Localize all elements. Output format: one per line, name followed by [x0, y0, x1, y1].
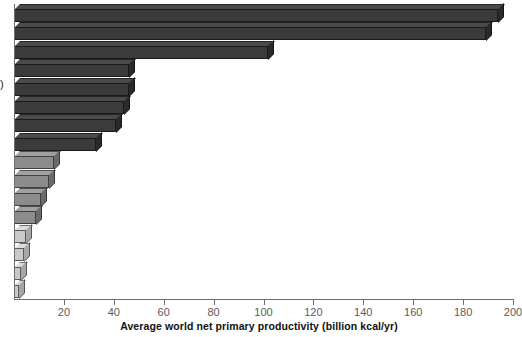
- x-axis-tick-label: 120: [304, 306, 322, 318]
- bar: [14, 78, 134, 96]
- bar: [14, 96, 129, 114]
- x-axis-tick: [413, 300, 414, 305]
- bar: [14, 114, 121, 132]
- x-axis-tick-label: 160: [404, 306, 422, 318]
- bar-side-face: [36, 205, 42, 225]
- plot-area: [14, 4, 518, 299]
- bar-front-face: [14, 175, 49, 188]
- bar-front-face: [14, 193, 41, 206]
- bar: [14, 41, 273, 59]
- bar: [14, 262, 26, 280]
- bar: [14, 170, 54, 188]
- bar: [14, 243, 29, 261]
- x-axis-tick: [114, 300, 115, 305]
- bar-front-face: [14, 9, 498, 22]
- y-axis-label-clipped: ): [0, 78, 4, 90]
- x-axis-tick: [513, 300, 514, 305]
- x-axis-tick: [64, 300, 65, 305]
- x-axis-tick-label: 60: [158, 306, 170, 318]
- bar-side-face: [268, 40, 274, 60]
- x-axis-tick: [264, 300, 265, 305]
- bar-front-face: [14, 46, 268, 59]
- x-axis-tick-label: 40: [108, 306, 120, 318]
- bar: [14, 22, 491, 40]
- bar: [14, 4, 503, 22]
- bar-front-face: [14, 230, 26, 243]
- bar: [14, 280, 24, 298]
- x-axis-tick-label: 140: [354, 306, 372, 318]
- x-axis-tick-label: 100: [254, 306, 272, 318]
- y-axis-line: [14, 4, 15, 300]
- x-axis-tick-label: 80: [207, 306, 219, 318]
- bar-front-face: [14, 101, 124, 114]
- x-axis-tick-label: 200: [504, 306, 522, 318]
- x-axis-tick: [313, 300, 314, 305]
- bar-front-face: [14, 27, 486, 40]
- bar-front-face: [14, 138, 96, 151]
- x-axis-tick-label: 180: [454, 306, 472, 318]
- bar: [14, 59, 134, 77]
- bar-front-face: [14, 248, 24, 261]
- x-axis-title: Average world net primary productivity (…: [0, 320, 518, 332]
- bar-side-face: [96, 132, 102, 152]
- x-axis-tick: [164, 300, 165, 305]
- bar-front-face: [14, 119, 116, 132]
- x-axis-tick: [214, 300, 215, 305]
- bar: [14, 188, 46, 206]
- bar-front-face: [14, 83, 129, 96]
- x-axis-tick: [463, 300, 464, 305]
- bar: [14, 151, 59, 169]
- bar-series: [14, 4, 518, 299]
- bar-front-face: [14, 211, 36, 224]
- bar: [14, 206, 41, 224]
- bar-side-face: [41, 187, 47, 207]
- x-axis-tick-label: 20: [58, 306, 70, 318]
- bar: [14, 225, 31, 243]
- bar-front-face: [14, 156, 54, 169]
- bar-front-face: [14, 64, 129, 77]
- bar: [14, 133, 101, 151]
- x-axis-tick: [363, 300, 364, 305]
- bar-side-face: [116, 113, 122, 133]
- bar-front-face: [14, 267, 21, 280]
